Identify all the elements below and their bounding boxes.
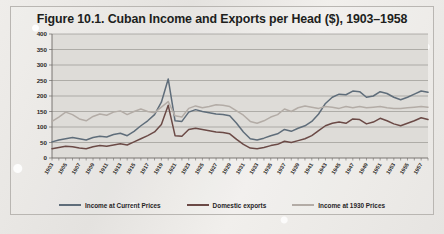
x-tick-label: 1927 <box>207 162 218 175</box>
x-tick-label: 1947 <box>344 162 355 175</box>
legend-label-domestic-exports: Domestic exports <box>213 202 267 209</box>
x-tick-label: 1941 <box>303 162 314 175</box>
x-tick-label: 1937 <box>275 162 286 175</box>
x-tick-label: 1939 <box>289 162 300 175</box>
y-tick-label: 200 <box>37 92 48 99</box>
x-tick-label: 1935 <box>262 162 273 175</box>
x-tick-label: 1945 <box>330 162 341 175</box>
x-tick-label: 1929 <box>221 162 232 175</box>
x-tick-label: 1913 <box>111 162 122 175</box>
legend-swatch-income-1930-prices <box>292 204 314 206</box>
legend-swatch-income-current-prices <box>59 204 81 206</box>
x-tick-label: 1915 <box>125 162 136 175</box>
x-tick-label: 1951 <box>371 162 382 175</box>
x-tick-label: 1931 <box>234 162 245 175</box>
legend-label-income-current-prices: Income at Current Prices <box>85 202 161 209</box>
y-tick-label: 250 <box>37 77 48 84</box>
legend-label-income-1930-prices: Income at 1930 Prices <box>318 202 385 209</box>
x-tick-label: 1925 <box>193 162 204 175</box>
x-tick-label: 1923 <box>180 162 191 175</box>
x-tick-label: 1953 <box>385 162 396 175</box>
y-tick-label: 100 <box>37 123 48 130</box>
x-tick-label: 1905 <box>57 162 68 175</box>
figure-title: Figure 10.1. Cuban Income and Exports pe… <box>10 6 434 32</box>
line-chart-svg: 050100150200250300350400 190319051907190… <box>10 30 434 180</box>
legend-item-income-current-prices: Income at Current Prices <box>59 202 161 209</box>
chart-legend: Income at Current Prices Domestic export… <box>10 198 434 212</box>
x-tick-label: 1933 <box>248 162 259 175</box>
x-tick-label: 1911 <box>98 162 109 175</box>
chart-plot-area: 050100150200250300350400 190319051907190… <box>10 30 434 180</box>
x-tick-label: 1943 <box>316 162 327 175</box>
y-tick-label: 150 <box>37 108 48 115</box>
y-tick-label: 400 <box>37 30 48 37</box>
x-tick-label: 1949 <box>357 162 368 175</box>
x-tick-label: 1903 <box>43 162 54 175</box>
legend-item-domestic-exports: Domestic exports <box>187 202 267 209</box>
x-tick-label: 1921 <box>166 162 177 175</box>
x-tick-label: 1955 <box>398 162 409 175</box>
x-tick-label: 1907 <box>70 162 81 175</box>
x-tick-label: 1919 <box>152 162 163 175</box>
y-axis-tick-labels: 050100150200250300350400 <box>37 30 48 161</box>
x-tick-label: 1957 <box>412 162 423 175</box>
y-tick-label: 50 <box>40 139 47 146</box>
legend-swatch-domestic-exports <box>187 204 209 206</box>
y-tick-label: 350 <box>37 46 48 53</box>
x-tick-label: 1909 <box>84 162 95 175</box>
legend-item-income-1930-prices: Income at 1930 Prices <box>292 202 385 209</box>
y-tick-label: 300 <box>37 61 48 68</box>
x-tick-label: 1917 <box>139 162 150 175</box>
y-tick-label: 0 <box>44 154 48 161</box>
x-axis-tick-labels: 1903190519071909191119131915191719191921… <box>43 162 424 175</box>
